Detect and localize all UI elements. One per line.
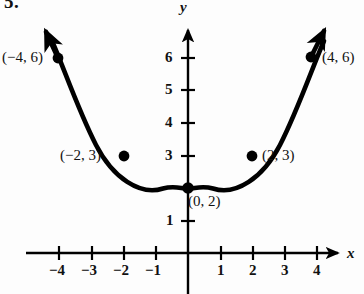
point-marker — [306, 52, 317, 63]
x-tick-label-neg3: −3 — [81, 263, 97, 278]
x-tick-label-neg1: −1 — [145, 263, 161, 278]
y-tick-label-3: 3 — [165, 148, 173, 163]
point-annotation-0-2: (0, 2) — [188, 194, 221, 209]
y-axis-label: y — [180, 0, 187, 15]
y-tick-label-6: 6 — [165, 50, 173, 65]
x-tick-label-neg4: −4 — [49, 263, 65, 278]
point-annotation-neg2-3: (−2, 3) — [60, 148, 101, 163]
point-marker — [119, 151, 130, 162]
x-tick-label-4: 4 — [313, 263, 321, 278]
x-tick-label-1: 1 — [217, 263, 225, 278]
point-marker — [53, 53, 64, 64]
point-marker — [247, 151, 258, 162]
point-annotation-neg4-6: (−4, 6) — [2, 50, 43, 65]
graph-figure: 5. — [0, 0, 364, 294]
x-axis-label: x — [347, 246, 355, 261]
x-tick-label-3: 3 — [281, 263, 289, 278]
coordinate-plane — [0, 0, 364, 294]
x-tick-label-2: 2 — [249, 263, 257, 278]
y-tick-label-5: 5 — [165, 82, 173, 97]
point-annotation-4-6: (4, 6) — [322, 50, 355, 65]
y-tick-label-1: 1 — [166, 213, 174, 228]
x-tick-label-neg2: −2 — [113, 263, 129, 278]
point-annotation-2-3: (2, 3) — [262, 148, 295, 163]
y-tick-label-4: 4 — [165, 115, 173, 130]
